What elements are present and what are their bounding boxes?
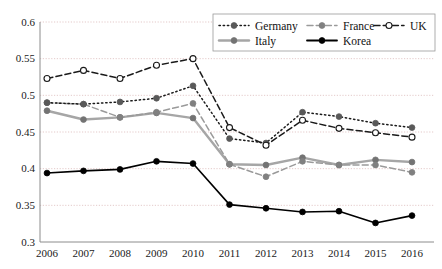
legend-label: Korea: [343, 35, 371, 47]
x-tick-label: 2009: [146, 247, 169, 259]
legend-marker: [231, 38, 237, 44]
legend-label: Germany: [255, 20, 298, 33]
data-point: [336, 125, 342, 131]
data-point: [81, 117, 87, 123]
y-tick-label: 0.3: [21, 236, 35, 248]
y-tick-label: 0.6: [21, 16, 35, 28]
data-point: [263, 205, 269, 211]
data-point: [190, 161, 196, 167]
legend-label: UK: [410, 20, 427, 32]
legend-marker: [386, 23, 392, 29]
data-point: [44, 108, 50, 114]
data-point: [227, 125, 233, 131]
y-tick-label: 0.5: [21, 89, 35, 101]
legend-marker: [319, 38, 325, 44]
series-uk: [44, 56, 415, 149]
data-point: [409, 159, 415, 165]
data-point: [44, 75, 50, 81]
data-point: [190, 115, 196, 121]
data-point: [373, 162, 379, 168]
y-tick-label: 0.45: [16, 126, 36, 138]
data-point: [300, 117, 306, 123]
legend-label: France: [343, 20, 374, 32]
data-point: [409, 213, 415, 219]
data-point: [263, 174, 269, 180]
data-series-layer: [44, 56, 415, 226]
y-axis-tick-labels: 0.30.350.40.450.50.550.6: [16, 16, 36, 248]
data-point: [154, 95, 160, 101]
data-point: [373, 220, 379, 226]
data-point: [300, 109, 306, 115]
data-point: [336, 114, 342, 120]
data-point: [44, 170, 50, 176]
data-point: [117, 99, 123, 105]
y-tick-label: 0.55: [16, 52, 36, 64]
line-chart: 0.30.350.40.450.50.550.6 200620072008200…: [0, 0, 442, 269]
x-tick-label: 2016: [401, 247, 424, 259]
data-point: [373, 130, 379, 136]
series-line: [47, 161, 412, 223]
data-point: [300, 158, 306, 164]
data-point: [81, 67, 87, 73]
data-point: [117, 167, 123, 173]
legend-marker: [231, 23, 237, 29]
data-point: [227, 161, 233, 167]
y-tick-label: 0.4: [21, 162, 35, 174]
data-point: [263, 142, 269, 148]
data-point: [263, 162, 269, 168]
data-point: [81, 101, 87, 107]
data-point: [154, 109, 160, 115]
series-line: [47, 86, 412, 143]
data-point: [300, 209, 306, 215]
data-point: [154, 158, 160, 164]
x-tick-label: 2015: [365, 247, 388, 259]
y-tick-label: 0.35: [16, 199, 36, 211]
x-tick-label: 2010: [182, 247, 205, 259]
data-point: [190, 83, 196, 89]
x-tick-label: 2012: [255, 247, 277, 259]
data-point: [409, 169, 415, 175]
x-tick-label: 2007: [73, 247, 96, 259]
x-tick-label: 2014: [328, 247, 351, 259]
data-point: [81, 168, 87, 174]
data-point: [117, 75, 123, 81]
legend-marker: [319, 23, 325, 29]
chart-legend: GermanyFranceUKItalyKorea: [213, 14, 435, 51]
data-point: [190, 56, 196, 62]
data-point: [409, 134, 415, 140]
data-point: [409, 125, 415, 131]
x-tick-label: 2011: [219, 247, 241, 259]
data-point: [154, 62, 160, 68]
legend-background: [213, 14, 435, 51]
data-point: [336, 162, 342, 168]
data-point: [227, 136, 233, 142]
data-point: [44, 100, 50, 106]
x-tick-label: 2006: [36, 247, 59, 259]
series-germany: [44, 83, 415, 146]
x-tick-label: 2013: [292, 247, 315, 259]
chart-canvas: 0.30.350.40.450.50.550.6 200620072008200…: [0, 0, 442, 269]
data-point: [227, 202, 233, 208]
legend-label: Italy: [255, 35, 276, 48]
data-point: [373, 120, 379, 126]
data-point: [117, 114, 123, 120]
data-point: [190, 101, 196, 107]
data-point: [336, 208, 342, 214]
x-axis-tick-labels: 2006200720082009201020112012201320142015…: [36, 247, 424, 259]
x-tick-label: 2008: [109, 247, 132, 259]
